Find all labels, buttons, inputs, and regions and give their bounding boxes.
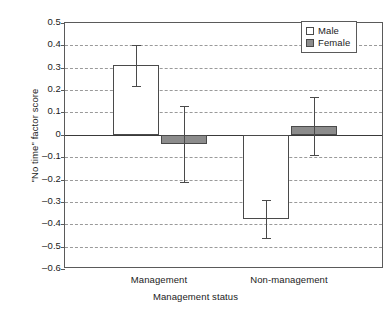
legend-swatch-male-icon — [306, 27, 314, 35]
error-bar-cap-lower — [310, 155, 319, 156]
legend-swatch-female-icon — [306, 39, 314, 47]
y-tick-label: 0.3 — [31, 62, 61, 72]
y-tick-label: 0.5 — [31, 17, 61, 27]
x-tick-label: Management — [131, 274, 187, 285]
legend-label-female: Female — [318, 38, 350, 48]
gridline — [65, 180, 382, 181]
plot-area — [64, 22, 383, 268]
chart-figure: "No time" factor score 0.50.40.30.20.10–… — [0, 0, 391, 310]
y-tick-label: –0.4 — [31, 219, 61, 229]
error-bar-line — [314, 97, 315, 155]
legend-item-male: Male — [306, 25, 350, 37]
y-tick-mark — [61, 269, 65, 270]
legend-item-female: Female — [306, 37, 350, 49]
y-tick-mark — [61, 23, 65, 24]
gridline — [65, 224, 382, 225]
y-tick-label: –0.5 — [31, 241, 61, 251]
error-bar-line — [266, 200, 267, 238]
y-tick-label: –0.2 — [31, 174, 61, 184]
y-tick-label: 0 — [31, 129, 61, 139]
y-tick-label: 0.1 — [31, 107, 61, 117]
zero-line — [65, 135, 382, 136]
gridline — [65, 202, 382, 203]
gridline — [65, 247, 382, 248]
y-axis-tick-labels: 0.50.40.30.20.10–0.1–0.2–0.3–0.4–0.5–0.6 — [28, 0, 61, 310]
error-bar-cap-upper — [310, 97, 319, 98]
error-bar-cap-lower — [180, 182, 189, 183]
error-bar-line — [136, 45, 137, 85]
y-tick-label: –0.1 — [31, 151, 61, 161]
x-tick-label: Non-management — [250, 274, 327, 285]
y-tick-label: 0.2 — [31, 84, 61, 94]
y-tick-label: 0.4 — [31, 40, 61, 50]
y-tick-label: –0.6 — [31, 263, 61, 273]
error-bar-cap-lower — [132, 86, 141, 87]
error-bar-cap-upper — [262, 200, 271, 201]
legend-label-male: Male — [318, 26, 339, 36]
error-bar-cap-lower — [262, 238, 271, 239]
gridline — [65, 157, 382, 158]
error-bar-cap-upper — [132, 45, 141, 46]
x-axis-title: Management status — [0, 291, 391, 302]
chart-legend: Male Female — [301, 21, 357, 53]
y-tick-label: –0.3 — [31, 196, 61, 206]
error-bar-line — [184, 106, 185, 182]
error-bar-cap-upper — [180, 106, 189, 107]
